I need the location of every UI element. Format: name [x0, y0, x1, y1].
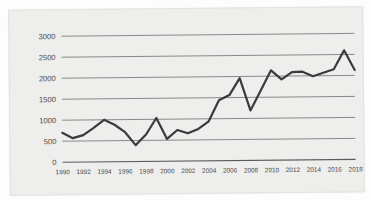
y-axis-tick-label: 0: [52, 158, 56, 167]
x-axis-tick-label: 2002: [181, 167, 196, 174]
gridline: [62, 138, 355, 141]
x-axis-tick-label: 1990: [56, 168, 71, 175]
gridline: [61, 33, 354, 36]
x-axis-tick-label: 2012: [286, 166, 301, 173]
y-axis-tick-label: 1000: [39, 116, 56, 125]
page-root: 050010001500200025003000 199019921994199…: [0, 0, 371, 200]
chart-card: 050010001500200025003000 199019921994199…: [8, 6, 365, 195]
x-axis-tick-label: 1992: [76, 168, 91, 175]
x-axis-tick-labels: 1990199219941996199820002002200420062008…: [56, 165, 364, 175]
x-axis-tick-label: 1998: [139, 167, 154, 174]
y-axis-tick-label: 500: [44, 137, 57, 146]
x-axis-tick-label: 2010: [265, 166, 280, 173]
y-axis-tick-label: 1500: [39, 95, 56, 104]
gridline: [62, 54, 355, 57]
gridlines-group: [61, 33, 355, 162]
x-axis-tick-label: 2014: [307, 166, 322, 173]
x-axis-tick-label: 2018: [349, 165, 364, 172]
y-axis-tick-label: 2000: [39, 74, 56, 83]
x-axis-tick-label: 1994: [97, 168, 112, 175]
x-axis-tick-label: 2016: [328, 166, 343, 173]
x-axis-tick-label: 2000: [160, 167, 175, 174]
gridline: [62, 96, 355, 99]
x-axis-line: [63, 159, 356, 162]
x-axis-tick-label: 1996: [118, 168, 133, 175]
x-axis-tick-label: 2004: [202, 167, 217, 174]
y-axis-tick-labels: 050010001500200025003000: [38, 32, 56, 167]
y-axis-tick-label: 3000: [38, 32, 55, 41]
y-axis-tick-label: 2500: [39, 53, 56, 62]
line-chart: 050010001500200025003000 199019921994199…: [9, 7, 364, 194]
x-axis-tick-label: 2006: [223, 167, 238, 174]
x-axis-tick-label: 2008: [244, 166, 259, 173]
chart-plot-area: 050010001500200025003000 199019921994199…: [9, 7, 364, 194]
